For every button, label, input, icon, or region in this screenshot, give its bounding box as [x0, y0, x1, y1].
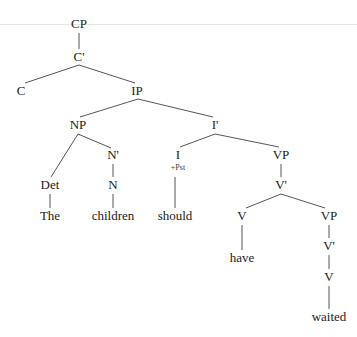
feature-pst: +Pst — [171, 164, 185, 172]
node-nbar: N' — [107, 148, 119, 161]
node-the: The — [40, 209, 60, 222]
node-np: NP — [70, 118, 87, 131]
syntax-tree: CPC'CIPNPI'N'IVPDetNV'ThechildrenshouldV… — [0, 0, 357, 337]
node-i: I — [176, 148, 180, 161]
node-vbar1: V' — [275, 178, 287, 191]
node-waited: waited — [312, 310, 347, 323]
node-cbar: C' — [73, 50, 84, 63]
node-c: C — [17, 84, 26, 97]
node-cp: CP — [71, 17, 87, 30]
node-n: N — [108, 178, 117, 191]
node-have: have — [230, 251, 255, 264]
node-should: should — [158, 209, 193, 222]
node-ip: IP — [131, 84, 143, 97]
node-vp1: VP — [273, 148, 290, 161]
node-vbar2: V' — [323, 239, 335, 252]
node-ibar: I' — [212, 118, 219, 131]
node-v2: V — [324, 270, 333, 283]
node-v1: V — [237, 209, 246, 222]
node-vp2: VP — [321, 209, 338, 222]
node-children: children — [92, 209, 135, 222]
node-det: Det — [41, 178, 60, 191]
